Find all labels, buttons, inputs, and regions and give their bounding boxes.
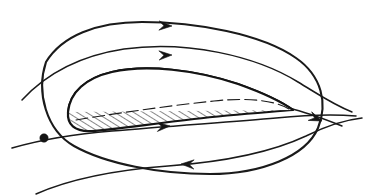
airfoil-streamlines-svg [0, 0, 387, 195]
airfoil-section-outline-top [68, 68, 293, 112]
airfoil-group [0, 0, 387, 195]
node-blob-group [40, 134, 48, 142]
figure-root: Airfoil in a flow field with closed circ… [0, 0, 387, 195]
contour-streamline-intersection-left [40, 134, 48, 142]
streamline-upper-arrow [159, 50, 172, 60]
streamline-upper-arrow-glyph [159, 50, 172, 60]
